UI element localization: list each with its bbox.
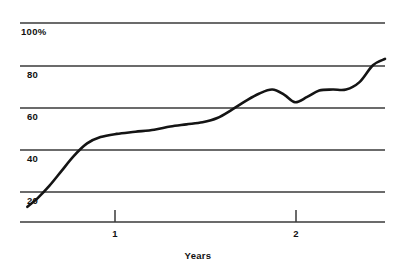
x-axis-group [20,210,385,222]
chart-canvas [0,0,400,277]
y-axis-label-60: 60 [27,111,38,122]
data-series-line [27,59,385,207]
gridlines-group [20,23,385,192]
y-axis-label-80: 80 [27,69,38,80]
x-axis-label-1: 1 [112,228,117,239]
x-axis-title: Years [185,250,212,261]
x-axis-label-2: 2 [293,228,298,239]
y-axis-label-40: 40 [27,153,38,164]
y-axis-label-100: 100% [21,26,47,37]
y-axis-label-20: 20 [27,195,38,206]
line-chart: 100% 80 60 40 20 1 2 Years [0,0,400,277]
